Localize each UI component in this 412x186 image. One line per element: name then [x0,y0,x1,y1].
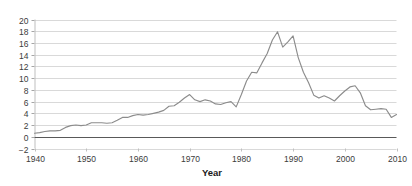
x-axis-tick-label: 1960 [129,154,148,164]
y-axis-tick-label: 0 [24,133,29,143]
y-axis-tick-label: 8 [24,86,29,96]
y-axis-tick-label: 12 [19,62,29,72]
chart-container: −202468101214161820 19401950196019701980… [0,0,412,186]
y-axis-tick-label: 4 [24,109,29,119]
line-chart: −202468101214161820 19401950196019701980… [0,0,412,186]
x-axis-tick-label: 1950 [77,154,96,164]
y-axis-tick-label: 10 [19,74,29,84]
x-axis-title: Year [202,167,222,178]
x-axis-tick-label: 1940 [26,154,45,164]
x-axis-tick-label: 2000 [336,154,355,164]
x-axis-tick-label: 2010 [388,154,407,164]
y-axis-tick-label: 6 [24,98,29,108]
y-axis-tick-label: 20 [19,16,29,26]
x-axis-tick-label: 1970 [181,154,200,164]
y-axis-tick-label: 14 [19,51,29,61]
y-axis-tick-label: 18 [19,27,29,37]
y-axis-tick-label: 2 [24,121,29,131]
y-axis-tick-label: 16 [19,39,29,49]
x-axis-tick-label: 1990 [284,154,303,164]
x-axis-tick-label: 1980 [232,154,251,164]
